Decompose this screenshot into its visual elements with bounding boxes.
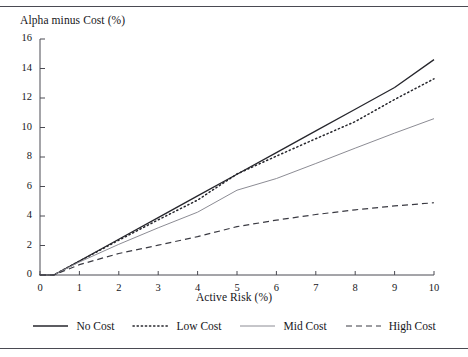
series-line-mid-cost [40,119,434,275]
chart-legend: No CostLow CostMid CostHigh Cost [0,320,468,332]
legend-swatch-dotted-icon [132,321,169,331]
legend-item-mid-cost[interactable]: Mid Cost [239,320,326,332]
legend-item-low-cost[interactable]: Low Cost [132,320,221,332]
legend-item-no-cost[interactable]: No Cost [32,320,114,332]
bottom-horizontal-rule [0,348,468,349]
y-tick-label: 8 [10,150,32,161]
legend-label: No Cost [76,320,114,332]
x-axis-title: Active Risk (%) [0,291,468,303]
legend-label: Mid Cost [283,320,326,332]
y-tick-label: 10 [10,121,32,132]
y-tick-label: 2 [10,239,32,250]
y-tick-label: 0 [10,268,32,279]
chart-figure: Alpha minus Cost (%) 0246810121416 01234… [0,6,468,348]
tick-marks [40,39,434,275]
y-tick-label: 12 [10,91,32,102]
y-tick-label: 16 [10,32,32,43]
y-tick-label: 6 [10,180,32,191]
axis-lines [40,39,434,275]
legend-swatch-solid-icon [32,321,69,331]
series-line-high-cost [40,203,434,275]
legend-label: High Cost [389,320,436,332]
series-line-no-cost [40,60,434,275]
series-line-low-cost [40,79,434,275]
legend-item-high-cost[interactable]: High Cost [345,320,436,332]
legend-swatch-solid-icon [239,321,276,331]
legend-swatch-dashed-icon [345,321,382,331]
y-tick-label: 4 [10,209,32,220]
legend-label: Low Cost [176,320,221,332]
series-lines [40,60,434,275]
y-tick-label: 14 [10,62,32,73]
